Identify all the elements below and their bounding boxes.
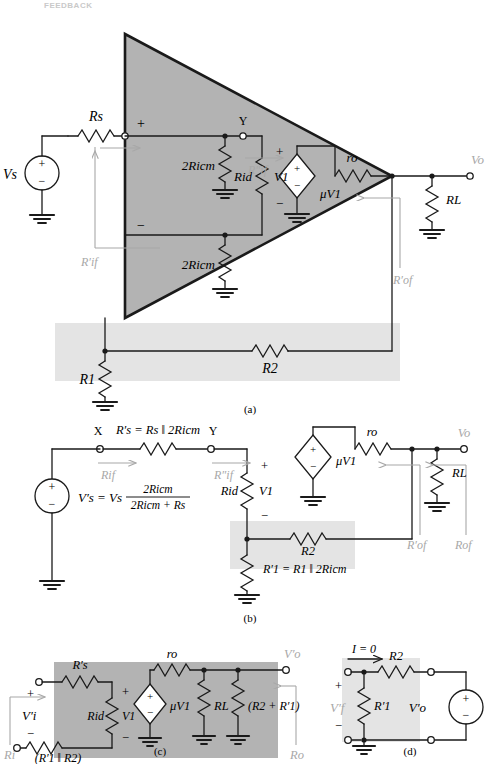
resistor-ro-b	[355, 443, 412, 455]
figure-a: Vs Rs + − + − Y 2Ricm 2Ricm Rid V1 + − +…	[0, 18, 500, 418]
label-v1-plus: +	[276, 144, 283, 159]
resistor-rs	[68, 130, 122, 142]
label-node-y: Y	[239, 114, 248, 128]
label-vo-minus-d: −	[463, 708, 470, 722]
label-rid-c: Rid	[86, 709, 105, 723]
label-v1-minus-b: −	[261, 509, 268, 523]
label-depsrc-minus-c: −	[147, 706, 153, 718]
label-rl: RL	[445, 192, 461, 207]
label-vs-prime-minus: −	[49, 497, 56, 511]
figure-b: X Y R′s = Rs ‖ 2Ricm + − V′s = Vs 2Ricm …	[0, 425, 500, 610]
terminal-vo	[467, 173, 473, 179]
label-ro-b: ro	[367, 425, 378, 439]
label-vs-plus: +	[39, 157, 46, 171]
label-ro-block-c: Ro	[289, 748, 304, 762]
label-rof-b: Rof	[454, 538, 473, 552]
terminal-vo-b	[461, 446, 468, 453]
resistor-rs-prime-b	[140, 443, 208, 455]
label-plus-input: +	[137, 116, 145, 131]
label-vf-prime-d: V′f	[330, 700, 347, 715]
label-rid-b: Rid	[220, 484, 239, 498]
label-depsrc-plus: +	[294, 162, 300, 174]
label-mu-v1: μV1	[319, 186, 341, 201]
label-2ricm-top: 2Ricm	[182, 158, 215, 173]
label-rof-prime: R′of	[392, 273, 414, 287]
label-node-y-b: Y	[209, 424, 218, 438]
label-mu-v1-b: μV1	[335, 454, 356, 468]
terminal-node-y-b	[208, 446, 215, 453]
label-node-x-b: X	[94, 424, 103, 438]
label-v1-b: V1	[259, 484, 273, 498]
label-depsrc-minus-b: −	[310, 460, 316, 472]
label-vi-minus-c: −	[27, 727, 34, 741]
label-vi-prime-c: V′i	[22, 708, 37, 723]
label-rif-dprime-b: R″if	[213, 468, 235, 482]
label-rl-c: RL	[213, 699, 229, 713]
label-rif-dprime: R″if	[247, 163, 269, 177]
label-r2-d: R2	[388, 649, 403, 663]
ground-2ricm-bottom	[213, 289, 237, 297]
label-vf-plus-d: +	[335, 679, 342, 693]
terminal-d-in-top	[345, 669, 352, 676]
label-r2-b: R2	[300, 544, 315, 558]
ground-source	[30, 215, 54, 223]
terminal-d-out-bot	[428, 737, 435, 744]
label-v1-minus: −	[276, 196, 283, 211]
label-minus-input: −	[137, 218, 145, 233]
terminal-c-out	[283, 667, 290, 674]
caption-c: (c)	[100, 745, 220, 757]
fraction-denominator: 2Ricm + Rs	[131, 499, 186, 511]
label-v1-c: V1	[122, 709, 135, 723]
ground-b-rl	[425, 503, 449, 511]
ground-rl	[420, 230, 444, 238]
label-r1: R1	[78, 372, 95, 387]
label-ri-c: Ri	[3, 748, 16, 762]
terminal-c-in-top	[36, 679, 43, 686]
ground-b-dep	[301, 497, 325, 505]
label-vs-minus: −	[39, 174, 46, 188]
node-dot-2ricm-top	[222, 133, 227, 138]
label-depsrc-plus-c: +	[147, 690, 153, 702]
resistor-rl	[426, 176, 438, 230]
label-vo-b: Vo	[458, 426, 471, 440]
terminal-d-in-bot	[345, 737, 352, 744]
label-rif-b: Rif	[100, 468, 117, 482]
label-rs-prime-c: R′s	[71, 658, 87, 672]
label-vs-prime-eq: V′s = Vs	[78, 490, 122, 505]
resistor-rl-b	[431, 449, 443, 503]
label-vo-prime-d: V′o	[409, 700, 427, 715]
running-head: FEEDBACK	[44, 1, 92, 10]
label-v1-minus-c: −	[122, 731, 129, 745]
label-vo-prime-c: V′o	[284, 647, 301, 661]
label-r2-plus-r1-c: (R2 + R′1)	[248, 699, 299, 713]
label-r1par-r2-c: (R′1 ‖ R2)	[35, 751, 82, 764]
resistor-rid-b	[241, 473, 253, 509]
label-v1-plus-b: +	[261, 459, 268, 473]
label-rs-prime-eq: R′s = Rs ‖ 2Ricm	[115, 423, 200, 437]
label-ro-c: ro	[167, 647, 178, 661]
label-vo-plus-d: +	[463, 692, 470, 706]
node-dot-2ricm-bottom	[222, 232, 227, 237]
fraction-vs-prime: 2Ricm 2Ricm + Rs	[126, 483, 190, 511]
terminal-d-out-top	[428, 669, 435, 676]
label-ro: ro	[346, 150, 358, 165]
label-depsrc-minus: −	[294, 179, 300, 191]
label-vs-prime-plus: +	[49, 480, 56, 494]
label-r2: R2	[261, 361, 278, 376]
ground-b-r1	[235, 595, 259, 603]
label-vo: Vo	[471, 152, 485, 167]
label-rof-prime-b: R′of	[406, 538, 428, 552]
ground-b-source	[40, 581, 64, 589]
caption-b: (b)	[0, 612, 500, 624]
label-rl-b: RL	[451, 466, 467, 480]
label-vf-minus-d: −	[335, 719, 342, 733]
caption-a: (a)	[0, 403, 500, 415]
terminal-node-y	[240, 133, 246, 139]
label-vi-plus-c: +	[27, 687, 34, 701]
fraction-numerator: 2Ricm	[143, 483, 172, 495]
label-vs: Vs	[3, 167, 18, 182]
label-2ricm-bottom: 2Ricm	[182, 257, 215, 272]
label-current-d: I = 0	[351, 642, 376, 656]
label-r1-prime-eq: R′1 = R1 ‖ 2Ricm	[262, 562, 347, 576]
dependent-source-diamond-b	[295, 435, 331, 479]
